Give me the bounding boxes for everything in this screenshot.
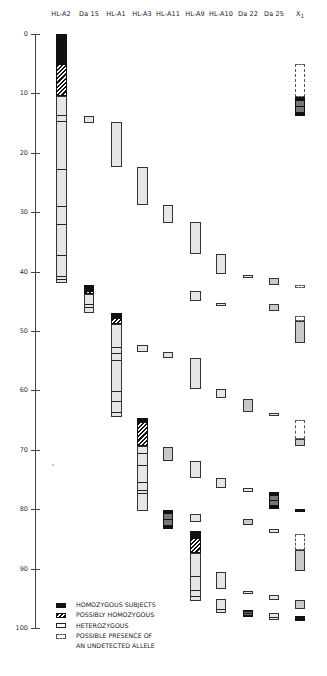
bar-segment-heterozygous xyxy=(190,358,201,389)
legend-label: POSSIBLY HOMOZYGOUS xyxy=(76,610,154,620)
bar-segment-heterozygous xyxy=(137,446,148,511)
bar-segment-undetected xyxy=(295,534,305,551)
segment-divider xyxy=(57,279,66,280)
bar-segment-undetected xyxy=(295,64,305,97)
legend-label: POSSIBLE PRESENCE OF xyxy=(76,631,152,641)
segment-divider xyxy=(57,121,66,122)
y-tick xyxy=(31,331,40,332)
segment-divider xyxy=(112,412,121,413)
bar-segment-heterozygous xyxy=(269,529,279,533)
bar-segment-heterozygous xyxy=(243,488,253,492)
bar-segment-heterozygous-dark xyxy=(243,399,253,412)
bar-segment-heterozygous xyxy=(216,478,226,488)
dashed-swatch-icon xyxy=(56,634,66,639)
bar-segment-possibly-homozygous xyxy=(56,64,67,97)
col-label-hla9: HL-A9 xyxy=(185,10,205,18)
legend: HOMOZYGOUS SUBJECTS POSSIBLY HOMOZYGOUS … xyxy=(56,600,156,651)
bar-segment-heterozygous xyxy=(216,572,226,589)
col-label-hla2: HL-A2 xyxy=(51,10,71,18)
segment-divider xyxy=(57,224,66,225)
y-tick-label: 100 xyxy=(8,624,28,632)
bar-segment-heterozygous xyxy=(190,514,201,522)
bar-segment-heterozygous xyxy=(84,116,94,123)
y-tick-label: 0 xyxy=(8,30,28,38)
segment-divider xyxy=(85,304,93,305)
bar-segment-homozygous-mixed xyxy=(163,510,173,529)
legend-label: HOMOZYGOUS SUBJECTS xyxy=(76,600,156,610)
y-tick-label: 80 xyxy=(8,505,28,513)
bar-segment-possibly-homozygous xyxy=(137,422,148,446)
segment-divider xyxy=(57,276,66,277)
bar-segment-heterozygous xyxy=(269,595,279,600)
bar-segment-heterozygous xyxy=(163,352,173,359)
segment-divider xyxy=(57,169,66,170)
legend-label: AN UNDETECTED ALLELE xyxy=(76,641,155,651)
segment-divider xyxy=(138,465,147,466)
y-tick-label: 60 xyxy=(8,386,28,394)
y-tick-label: 90 xyxy=(8,565,28,573)
bar-segment-heterozygous-dark xyxy=(269,304,279,311)
bar-segment-heterozygous xyxy=(137,167,148,205)
bar-segment-homozygous xyxy=(56,34,67,64)
y-tick-label: 50 xyxy=(8,327,28,335)
segment-divider xyxy=(138,453,147,454)
bar-segment-heterozygous xyxy=(190,461,201,478)
segment-divider xyxy=(138,482,147,483)
segment-divider xyxy=(191,590,200,591)
bar-segment-heterozygous xyxy=(243,275,253,278)
col-label-hla10: HL-A10 xyxy=(209,10,233,18)
bar-segment-heterozygous xyxy=(243,591,253,594)
bar-segment-heterozygous xyxy=(111,324,122,417)
bar-segment-heterozygous xyxy=(216,599,226,613)
y-tick xyxy=(31,153,40,154)
col-label-hla11: HL-A11 xyxy=(156,10,180,18)
col-label-x1: X1 xyxy=(296,10,304,19)
bar-segment-heterozygous-dark xyxy=(295,550,305,571)
bar-segment-heterozygous xyxy=(190,291,201,301)
bar-segment-heterozygous-dark xyxy=(295,321,305,342)
bar-segment-heterozygous xyxy=(216,254,226,274)
bar-segment-heterozygous-dark xyxy=(269,278,279,285)
segment-divider xyxy=(57,115,66,116)
col-label-da25: Da 25 xyxy=(264,10,284,18)
y-tick xyxy=(31,628,40,629)
bar-segment-heterozygous xyxy=(190,553,201,602)
legend-item-possibly-homozygous: POSSIBLY HOMOZYGOUS xyxy=(56,610,156,620)
bar-segment-possibly-homozygous xyxy=(190,538,201,553)
bar-segment-homozygous-mixed xyxy=(295,97,305,116)
speck xyxy=(52,464,54,466)
bar-segment-heterozygous xyxy=(269,413,279,416)
segment-divider xyxy=(217,609,225,610)
segment-divider xyxy=(270,617,278,618)
bar-segment-heterozygous-dark xyxy=(295,439,305,446)
bar-segment-homozygous-mixed xyxy=(243,610,253,617)
legend-item-undetected: POSSIBLE PRESENCE OF xyxy=(56,631,156,641)
bar-segment-heterozygous xyxy=(190,222,201,253)
bar-segment-heterozygous-dark xyxy=(295,600,305,609)
bar-segment-heterozygous xyxy=(137,345,148,352)
bar-segment-heterozygous xyxy=(56,96,67,283)
y-tick xyxy=(31,272,40,273)
segment-divider xyxy=(57,255,66,256)
segment-divider xyxy=(112,360,121,361)
segment-divider xyxy=(85,307,93,308)
bar-segment-heterozygous xyxy=(84,294,94,313)
y-tick-label: 70 xyxy=(8,446,28,454)
bar-segment-heterozygous xyxy=(216,389,226,398)
y-tick-label: 10 xyxy=(8,89,28,97)
y-tick xyxy=(31,569,40,570)
y-tick xyxy=(31,212,40,213)
bar-segment-homozygous xyxy=(190,531,201,538)
segment-divider xyxy=(112,353,121,354)
segment-divider xyxy=(191,596,200,597)
y-tick xyxy=(31,390,40,391)
y-tick-label: 30 xyxy=(8,208,28,216)
segment-divider xyxy=(138,490,147,491)
bar-segment-homozygous-mixed xyxy=(295,616,305,621)
legend-label: HETEROZYGOUS xyxy=(76,621,128,631)
bar-segment-homozygous xyxy=(295,509,305,513)
segment-divider xyxy=(112,391,121,392)
col-label-da15: Da 15 xyxy=(79,10,99,18)
bar-segment-heterozygous xyxy=(163,205,173,223)
outline-swatch-icon xyxy=(56,623,66,628)
